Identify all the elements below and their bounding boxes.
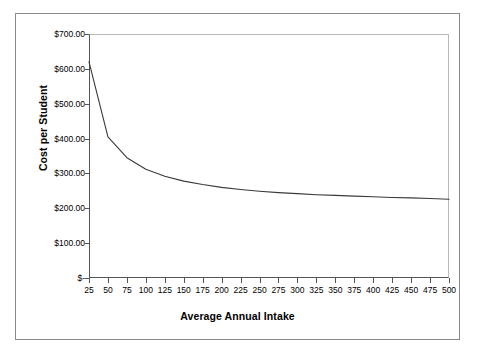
line-series-curve bbox=[89, 34, 449, 278]
y-tick-mark bbox=[85, 69, 89, 70]
x-tick-label: 275 bbox=[271, 285, 285, 295]
x-tick-mark bbox=[354, 278, 355, 283]
x-tick-mark bbox=[146, 278, 147, 283]
x-tick-label: 75 bbox=[122, 285, 131, 295]
x-tick-mark bbox=[335, 278, 336, 283]
x-tick-mark bbox=[449, 278, 450, 283]
y-tick-mark bbox=[85, 208, 89, 209]
x-tick-label: 425 bbox=[385, 285, 399, 295]
x-tick-label: 50 bbox=[103, 285, 112, 295]
x-tick-label: 400 bbox=[366, 285, 380, 295]
x-tick-label: 250 bbox=[252, 285, 266, 295]
y-tick-mark bbox=[85, 139, 89, 140]
x-tick-label: 25 bbox=[84, 285, 93, 295]
x-tick-mark bbox=[127, 278, 128, 283]
y-tick-mark bbox=[85, 34, 89, 35]
x-tick-mark bbox=[184, 278, 185, 283]
x-tick-mark bbox=[316, 278, 317, 283]
x-tick-mark bbox=[165, 278, 166, 283]
x-tick-label: 100 bbox=[139, 285, 153, 295]
x-tick-mark bbox=[373, 278, 374, 283]
x-tick-label: 325 bbox=[309, 285, 323, 295]
x-axis-title: Average Annual Intake bbox=[16, 310, 459, 322]
x-tick-label: 300 bbox=[290, 285, 304, 295]
x-tick-label: 125 bbox=[158, 285, 172, 295]
x-tick-mark bbox=[430, 278, 431, 283]
x-tick-label: 225 bbox=[233, 285, 247, 295]
y-tick-mark bbox=[85, 104, 89, 105]
y-tick-label: $600.00 bbox=[54, 64, 85, 74]
x-tick-label: 150 bbox=[177, 285, 191, 295]
y-tick-label: $200.00 bbox=[54, 203, 85, 213]
x-tick-label: 500 bbox=[442, 285, 456, 295]
x-tick-label: 475 bbox=[423, 285, 437, 295]
plot-wrap: $-$100.00$200.00$300.00$400.00$500.00$60… bbox=[89, 34, 449, 278]
x-tick-mark bbox=[203, 278, 204, 283]
y-tick-label: $100.00 bbox=[54, 238, 85, 248]
x-tick-mark bbox=[222, 278, 223, 283]
x-tick-label: 450 bbox=[404, 285, 418, 295]
x-tick-mark bbox=[260, 278, 261, 283]
x-tick-mark bbox=[278, 278, 279, 283]
x-tick-mark bbox=[411, 278, 412, 283]
y-tick-label: $700.00 bbox=[54, 29, 85, 39]
x-tick-label: 350 bbox=[328, 285, 342, 295]
y-tick-label: $300.00 bbox=[54, 168, 85, 178]
x-tick-label: 175 bbox=[196, 285, 210, 295]
y-tick-mark bbox=[85, 243, 89, 244]
y-tick-label: $- bbox=[77, 273, 85, 283]
y-tick-label: $500.00 bbox=[54, 99, 85, 109]
x-tick-mark bbox=[392, 278, 393, 283]
x-tick-label: 200 bbox=[215, 285, 229, 295]
y-tick-label: $400.00 bbox=[54, 134, 85, 144]
y-tick-mark bbox=[85, 173, 89, 174]
x-tick-mark bbox=[297, 278, 298, 283]
x-tick-mark bbox=[89, 278, 90, 283]
y-axis-title: Cost per Student bbox=[37, 68, 49, 188]
chart-frame: Cost per Student $-$100.00$200.00$300.00… bbox=[15, 13, 460, 340]
x-tick-label: 375 bbox=[347, 285, 361, 295]
x-tick-mark bbox=[241, 278, 242, 283]
x-tick-mark bbox=[108, 278, 109, 283]
